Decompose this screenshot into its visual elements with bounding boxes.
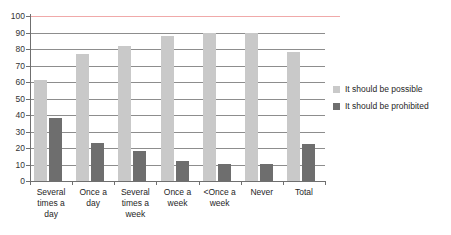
bar <box>118 46 131 181</box>
legend-label-possible: It should be possible <box>345 85 423 94</box>
x-axis-label-line: Several <box>114 187 156 198</box>
gridline <box>30 82 325 83</box>
legend-label-prohibited: It should be prohibited <box>345 102 429 111</box>
gridline <box>30 115 325 116</box>
x-axis-label-line: Once a <box>156 187 198 198</box>
bar <box>91 143 104 181</box>
x-axis-label-line: <Once a <box>199 187 241 198</box>
bar <box>133 151 146 181</box>
x-axis-tick <box>241 181 242 185</box>
x-axis-label-line: Once a <box>72 187 114 198</box>
x-axis-label-line: Several <box>30 187 72 198</box>
gridline <box>30 49 325 50</box>
legend-swatch-possible-icon <box>333 86 340 93</box>
x-axis-tick <box>156 181 157 185</box>
x-axis-label: Never <box>241 187 283 198</box>
x-axis-label-line: day <box>72 198 114 209</box>
x-axis-tick <box>72 181 73 185</box>
gridline <box>30 148 325 149</box>
x-axis-label: Once aday <box>72 187 114 209</box>
y-axis-tick <box>26 82 31 83</box>
x-axis-label-line: day <box>30 209 72 220</box>
y-axis-tick <box>26 132 31 133</box>
gridline <box>30 132 325 133</box>
legend-swatch-prohibited-icon <box>333 103 340 110</box>
x-axis-label: Severaltimes aweek <box>114 187 156 220</box>
y-axis-tick <box>26 165 31 166</box>
y-axis-tick-label: 70 <box>1 62 25 70</box>
y-axis-tick-label: 10 <box>1 161 25 169</box>
y-axis-tick <box>26 181 31 182</box>
y-axis-tick <box>26 99 31 100</box>
y-axis-tick-label: 90 <box>1 29 25 37</box>
bar <box>34 80 47 181</box>
y-axis-tick-label: 80 <box>1 45 25 53</box>
bar <box>161 36 174 181</box>
y-axis-tick <box>26 49 31 50</box>
bar <box>245 33 258 182</box>
gridline <box>30 181 325 182</box>
bar <box>203 33 216 182</box>
y-axis-tick <box>26 115 31 116</box>
y-axis-tick-label: 60 <box>1 78 25 86</box>
x-axis-label: Once aweek <box>156 187 198 209</box>
chart-legend: It should be possible It should be prohi… <box>333 83 451 117</box>
plot-area <box>30 16 325 181</box>
gridline <box>30 99 325 100</box>
x-axis-label-line: Total <box>283 187 325 198</box>
gridline <box>30 16 340 17</box>
x-axis-label: Severaltimes aday <box>30 187 72 220</box>
y-axis-tick-label: 30 <box>1 128 25 136</box>
x-axis-label-line: times a <box>114 198 156 209</box>
bar <box>287 52 300 181</box>
bar <box>302 144 315 181</box>
x-axis-tick <box>283 181 284 185</box>
y-axis-tick <box>26 16 31 17</box>
y-axis-tick-label: 50 <box>1 95 25 103</box>
bar <box>218 164 231 181</box>
y-axis-tick <box>26 148 31 149</box>
y-axis-tick-label: 0 <box>1 177 25 185</box>
x-axis-label-line: week <box>199 198 241 209</box>
gridline <box>30 33 325 34</box>
x-axis-label-line: times a <box>30 198 72 209</box>
x-axis-label-line: week <box>156 198 198 209</box>
y-axis-tick <box>26 33 31 34</box>
x-axis-label: <Once aweek <box>199 187 241 209</box>
y-axis-labels: 1009080706050403020100 <box>0 0 25 235</box>
bar <box>49 118 62 181</box>
x-axis-tick <box>325 181 326 185</box>
gridline <box>30 66 325 67</box>
y-axis-tick <box>26 66 31 67</box>
bar <box>76 54 89 181</box>
legend-item-prohibited: It should be prohibited <box>333 100 451 112</box>
y-axis-tick-label: 20 <box>1 144 25 152</box>
legend-item-possible: It should be possible <box>333 83 451 95</box>
bar <box>260 164 273 181</box>
x-axis-tick <box>114 181 115 185</box>
y-axis-tick-label: 40 <box>1 111 25 119</box>
bar <box>176 161 189 181</box>
bar-chart: 1009080706050403020100 Severaltimes aday… <box>0 0 451 235</box>
x-axis-label: Total <box>283 187 325 198</box>
y-axis-tick-label: 100 <box>1 12 25 20</box>
x-axis-label-line: Never <box>241 187 283 198</box>
x-axis-tick <box>199 181 200 185</box>
x-axis-label-line: week <box>114 209 156 220</box>
